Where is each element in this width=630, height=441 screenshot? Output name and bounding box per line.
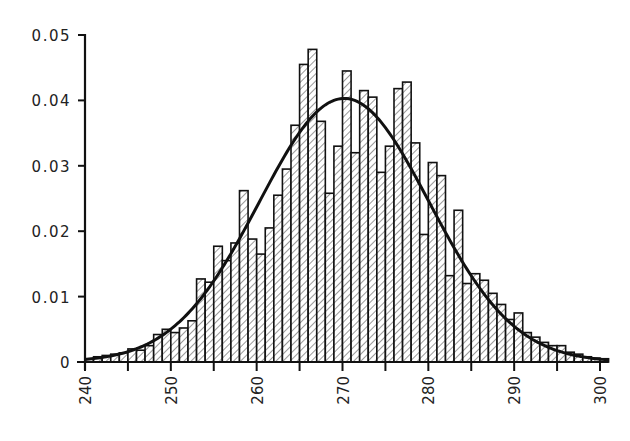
x-tick-label: 250 xyxy=(163,376,181,405)
histogram-bar xyxy=(343,71,352,362)
histogram-bar xyxy=(334,146,343,362)
histogram-bar xyxy=(446,276,455,362)
histogram-bar xyxy=(377,172,386,362)
y-tick-label: 0.01 xyxy=(32,289,71,307)
histogram-bar xyxy=(197,279,206,362)
histogram-bar xyxy=(265,228,274,362)
histogram-bars xyxy=(85,49,609,362)
histogram-bar xyxy=(257,254,266,362)
y-tick-label: 0 xyxy=(60,354,71,372)
y-tick-label: 0.02 xyxy=(32,223,71,241)
x-tick-label: 270 xyxy=(335,376,353,405)
histogram-bar xyxy=(403,82,412,362)
histogram-bar xyxy=(437,176,446,362)
histogram-bar xyxy=(368,97,377,362)
histogram-bar xyxy=(137,350,146,362)
y-tick-label: 0.03 xyxy=(32,158,71,176)
histogram-bar xyxy=(454,210,463,362)
histogram-bar xyxy=(214,246,223,362)
histogram-bar xyxy=(205,282,214,362)
histogram-bar xyxy=(171,333,180,362)
x-tick-label: 300 xyxy=(592,376,610,405)
histogram-bar xyxy=(428,163,437,362)
histogram-bar xyxy=(325,193,334,362)
y-tick-label: 0.04 xyxy=(32,92,71,110)
x-tick-label: 290 xyxy=(506,376,524,405)
histogram-bar xyxy=(385,146,394,362)
x-tick-label: 240 xyxy=(77,376,95,405)
histogram-bar xyxy=(360,91,369,362)
histogram-bar xyxy=(300,64,309,362)
histogram-bar xyxy=(222,261,231,362)
histogram-bar xyxy=(240,191,249,362)
histogram-bar xyxy=(282,169,291,362)
histogram-chart: 00.010.020.030.040.052402502602702802903… xyxy=(0,0,630,441)
histogram-bar xyxy=(317,121,326,362)
histogram-bar xyxy=(420,234,429,362)
histogram-bar xyxy=(514,313,523,362)
histogram-bar xyxy=(394,89,403,362)
histogram-bar xyxy=(463,284,472,362)
histogram-bar xyxy=(291,125,300,362)
x-tick-label: 280 xyxy=(420,376,438,405)
histogram-bar xyxy=(179,328,188,362)
histogram-bar xyxy=(145,346,154,362)
histogram-bar xyxy=(351,153,360,362)
histogram-bar xyxy=(274,195,283,362)
histogram-bar xyxy=(308,49,317,362)
y-tick-label: 0.05 xyxy=(32,27,71,45)
x-tick-label: 260 xyxy=(249,376,267,405)
histogram-bar xyxy=(248,239,257,362)
histogram-bar xyxy=(188,321,197,362)
histogram-bar xyxy=(231,243,240,362)
